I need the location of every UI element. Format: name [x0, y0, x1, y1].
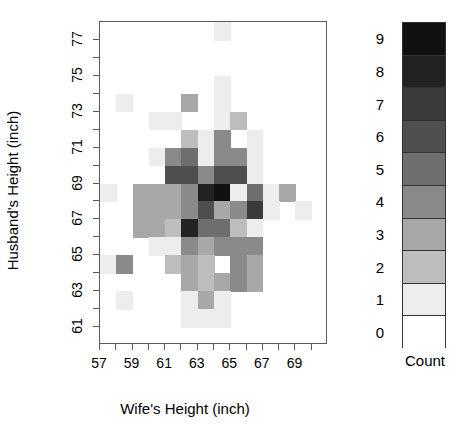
heatmap-cell: [214, 76, 231, 95]
y-axis-tick: [93, 111, 99, 112]
heatmap-cell: [116, 94, 133, 113]
heatmap-cell: [214, 112, 231, 131]
heatmap-cell: [181, 184, 198, 203]
x-axis-tick: [180, 344, 181, 350]
heatmap-cell: [133, 219, 150, 238]
x-axis-tick: [278, 344, 279, 350]
heatmap-cell: [230, 112, 247, 131]
x-axis-tick: [262, 344, 263, 350]
heatmap-cell: [214, 237, 231, 256]
legend-colorbar: [402, 22, 446, 348]
heatmap-cell: [214, 148, 231, 167]
y-axis-tick-label: 75: [70, 60, 84, 90]
heatmap-cell: [247, 130, 264, 149]
y-axis-tick-label: 67: [70, 203, 84, 233]
legend-swatch: [403, 284, 445, 317]
y-axis-tick: [93, 39, 99, 40]
heatmap-cell: [214, 166, 231, 185]
heatmap-cell: [198, 237, 215, 256]
heatmap-cell: [149, 237, 166, 256]
heatmap-cell: [230, 237, 247, 256]
heatmap-cell: [100, 255, 117, 274]
heatmap-cell: [247, 201, 264, 220]
x-axis-tick: [132, 344, 133, 350]
legend-swatch: [403, 251, 445, 284]
legend-swatch: [403, 23, 445, 56]
heatmap-cell: [181, 166, 198, 185]
heatmap-cell: [181, 309, 198, 328]
legend-swatch: [403, 219, 445, 252]
y-axis-tick: [93, 165, 99, 166]
y-axis-tick: [93, 326, 99, 327]
y-axis-tick: [93, 57, 99, 58]
x-axis-tick: [229, 344, 230, 350]
heatmap-cell: [279, 184, 296, 203]
legend-swatch: [403, 56, 445, 89]
y-axis-tick-label: 69: [70, 168, 84, 198]
heatmap-cell: [263, 184, 280, 203]
heatmap-cell: [198, 148, 215, 167]
x-axis-tick: [115, 344, 116, 350]
heatmap-cell: [295, 201, 312, 220]
heatmap-cell: [181, 148, 198, 167]
legend-tick-label: 2: [368, 260, 392, 275]
heatmap-cell: [181, 255, 198, 274]
x-axis-tick: [164, 344, 165, 350]
heatmap-cell: [181, 130, 198, 149]
x-axis-tick: [148, 344, 149, 350]
heatmap-cell: [198, 184, 215, 203]
legend-swatch: [403, 88, 445, 121]
legend-swatch: [403, 316, 445, 349]
y-axis-tick: [93, 290, 99, 291]
legend-tick-label: 5: [368, 162, 392, 177]
x-axis-tick-label: 65: [214, 356, 244, 370]
heatmap-cell: [181, 219, 198, 238]
heatmap-cell: [198, 201, 215, 220]
heatmap-cell: [198, 309, 215, 328]
x-axis-tick: [197, 344, 198, 350]
heatmap-cell: [181, 273, 198, 292]
heatmap-cell: [165, 184, 182, 203]
legend-tick-label: 7: [368, 97, 392, 112]
heatmap-cell: [214, 201, 231, 220]
legend-tick-label: 9: [368, 31, 392, 46]
y-axis-tick-label: 63: [70, 275, 84, 305]
legend-tick-label: 8: [368, 64, 392, 79]
heatmap-cell: [181, 291, 198, 310]
y-axis-tick: [93, 129, 99, 130]
heatmap-cell: [214, 309, 231, 328]
heatmap-cell: [198, 130, 215, 149]
heatmap-cell: [247, 166, 264, 185]
heatmap-cell: [116, 255, 133, 274]
y-axis-tick: [93, 254, 99, 255]
x-axis-tick: [311, 344, 312, 350]
legend-tick-label: 3: [368, 227, 392, 242]
x-axis-tick-label: 61: [149, 356, 179, 370]
heatmap-cell: [165, 148, 182, 167]
heatmap-cell: [230, 273, 247, 292]
heatmap-cell: [181, 201, 198, 220]
heatmap-cell: [116, 291, 133, 310]
heatmap-cell: [165, 255, 182, 274]
heatmap-cell: [165, 166, 182, 185]
x-axis-tick-label: 59: [117, 356, 147, 370]
y-axis-tick: [93, 183, 99, 184]
heatmap-cell: [247, 255, 264, 274]
heatmap-cell: [165, 237, 182, 256]
x-axis-title: Wife's Height (inch): [0, 400, 370, 417]
heatmap-cell: [100, 184, 117, 203]
x-axis-tick-label: 69: [279, 356, 309, 370]
heatmap-cell: [133, 184, 150, 203]
legend-swatch: [403, 153, 445, 186]
heatmap-grid: [100, 22, 326, 343]
heatmap-cell: [230, 148, 247, 167]
y-axis-tick: [93, 75, 99, 76]
heatmap-cell: [181, 94, 198, 113]
heatmap-cell: [230, 166, 247, 185]
heatmap-cell: [263, 201, 280, 220]
legend-swatch: [403, 186, 445, 219]
legend-tick-label: 6: [368, 129, 392, 144]
legend-title: Count: [380, 352, 470, 369]
heatmap-cell: [149, 219, 166, 238]
heatmap-cell: [149, 184, 166, 203]
